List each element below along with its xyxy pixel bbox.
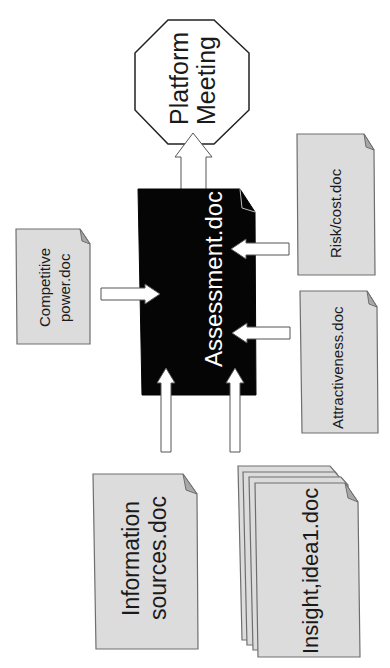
attractiveness-doc-label: Attractiveness.doc — [329, 306, 346, 429]
platform-meeting-line1: Platform — [165, 32, 193, 125]
arrow-information-to-assessment — [157, 368, 175, 452]
assessment-doc-label: Assessment.doc — [200, 191, 227, 367]
platform-meeting-line2: Meeting — [192, 36, 220, 125]
risk-cost-doc[interactable]: Risk/cost.doc — [297, 134, 375, 275]
competitive-power-doc-line2: power.doc — [56, 253, 73, 322]
information-sources-doc[interactable]: Information sources.doc — [93, 474, 198, 649]
insight-idea-doc-label: Insight,idea1.doc — [298, 488, 323, 654]
competitive-power-doc-line1: Competitive — [36, 248, 53, 327]
information-sources-doc-line1: Information — [118, 501, 144, 616]
attractiveness-doc[interactable]: Attractiveness.doc — [300, 291, 378, 433]
information-sources-doc-line2: sources.doc — [145, 496, 171, 620]
diagram-canvas: Platform Meeting Assessment.doc Competit… — [0, 0, 390, 668]
arrow-insight-to-assessment — [226, 368, 244, 452]
competitive-power-doc[interactable]: Competitive power.doc — [16, 229, 90, 344]
insight-idea-doc-stack[interactable]: Insight,idea1.doc — [238, 466, 360, 657]
risk-cost-doc-label: Risk/cost.doc — [327, 168, 344, 258]
platform-meeting-node[interactable]: Platform Meeting — [135, 20, 249, 144]
